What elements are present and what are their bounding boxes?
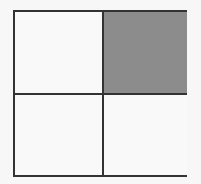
two-by-two-grid	[13, 10, 187, 177]
cell-bottom-left	[15, 95, 102, 175]
horizontal-divider	[15, 93, 185, 95]
cell-bottom-right	[104, 95, 187, 175]
cell-top-right-shaded	[104, 12, 187, 93]
cell-top-left	[15, 12, 102, 93]
